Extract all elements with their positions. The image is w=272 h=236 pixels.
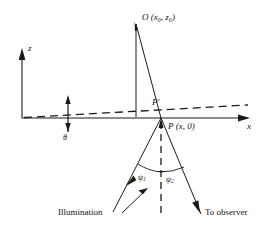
- surface-point-coords: (x, 0): [176, 121, 195, 131]
- illumination-ray: [113, 118, 161, 212]
- observer-caption: To observer: [205, 208, 248, 217]
- psi1-label: ψ1: [138, 174, 146, 183]
- illumination-caption: Illumination: [58, 208, 103, 217]
- surface-point-label: P (x, 0): [168, 122, 195, 131]
- z-axis-label: z: [28, 44, 32, 53]
- psi1-subscript: 1: [143, 176, 146, 182]
- psi2-label: ψ2: [166, 176, 174, 185]
- z-axis-arrowhead: [19, 48, 26, 60]
- x-axis-label: x: [247, 122, 251, 131]
- illumination-leader-arrowhead: [138, 188, 148, 194]
- source-coords-text: (x₀, z₀): [151, 12, 175, 22]
- observer-ray-arrowhead: [192, 200, 200, 213]
- optics-geometry-figure: [0, 0, 272, 236]
- psi2-subscript: 2: [171, 178, 174, 184]
- theta-arrowhead-down: [65, 123, 70, 132]
- source-point-marker: [135, 22, 139, 31]
- psi1-arc: [138, 164, 161, 172]
- theta-label: θ: [63, 134, 67, 142]
- image-point-label: P′: [152, 98, 159, 107]
- theta-arrowhead-up: [65, 95, 70, 104]
- observer-ray: [161, 118, 201, 214]
- source-point-label: O (x₀, z₀): [142, 13, 175, 22]
